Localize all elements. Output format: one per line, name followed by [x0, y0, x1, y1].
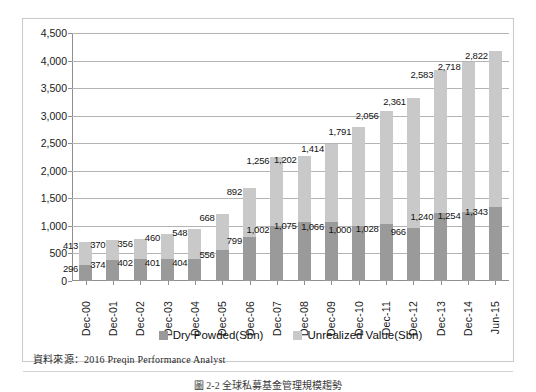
x-tick-mark [113, 281, 114, 285]
data-label-unrealized-value: 892 [227, 187, 242, 197]
legend-label: Dry Powded(Sbn) [173, 329, 264, 341]
y-tick-label: 3,000 [41, 110, 67, 122]
data-label-unrealized-value: 370 [90, 240, 105, 250]
data-label-dry-powder: 799 [227, 236, 242, 246]
data-label-dry-powder: 966 [391, 227, 406, 237]
y-tick-label: 1,000 [41, 220, 67, 232]
data-label-dry-powder: 1,343 [465, 207, 488, 217]
bar-segment-unrealized-value[interactable] [407, 98, 420, 228]
x-tick-mark [386, 281, 387, 285]
x-tick-mark [413, 281, 414, 285]
x-tick-mark [304, 281, 305, 285]
y-tick-label: 3,500 [41, 82, 67, 94]
data-label-dry-powder: 1,000 [329, 225, 352, 235]
bar-segment-unrealized-value[interactable] [298, 156, 311, 222]
bar-segment-dry-powder[interactable] [352, 226, 365, 281]
data-label-dry-powder: 1,002 [247, 225, 270, 235]
bar-segment-dry-powder[interactable] [216, 250, 229, 281]
x-tick-mark [222, 281, 223, 285]
x-tick-mark [468, 281, 469, 285]
data-label-unrealized-value: 1,791 [329, 127, 352, 137]
data-label-unrealized-value: 548 [172, 228, 187, 238]
data-label-unrealized-value: 1,202 [274, 155, 297, 165]
bar-segment-dry-powder[interactable] [188, 259, 201, 281]
data-label-unrealized-value: 2,822 [465, 51, 488, 61]
bar-segment-dry-powder[interactable] [434, 213, 447, 281]
data-label-unrealized-value: 2,583 [410, 70, 433, 80]
y-tick-label: 2,000 [41, 165, 67, 177]
bar-segment-unrealized-value[interactable] [352, 127, 365, 226]
data-label-unrealized-value: 668 [199, 213, 214, 223]
data-label-unrealized-value: 2,718 [438, 62, 461, 72]
x-tick-mark [441, 281, 442, 285]
bar-segment-dry-powder[interactable] [462, 212, 475, 281]
legend-swatch-icon [159, 331, 168, 340]
y-tick-mark [68, 281, 72, 282]
y-tick-label: 0 [61, 275, 67, 287]
data-label-dry-powder: 1,240 [410, 212, 433, 222]
data-label-dry-powder: 374 [90, 260, 105, 270]
source-note: 資料來源：2016 Preqin Performance Analyst [33, 351, 225, 366]
bar-segment-unrealized-value[interactable] [380, 111, 393, 224]
data-label-unrealized-value: 2,361 [383, 97, 406, 107]
x-tick-mark [331, 281, 332, 285]
data-label-unrealized-value: 1,256 [247, 156, 270, 166]
plot-area: 05001,0001,5002,0002,5003,0003,5004,0004… [72, 33, 509, 281]
x-tick-mark [168, 281, 169, 285]
y-tick-label: 4,500 [41, 27, 67, 39]
data-label-dry-powder: 402 [118, 258, 133, 268]
bar-segment-unrealized-value[interactable] [325, 144, 338, 222]
x-tick-mark [250, 281, 251, 285]
legend-item[interactable]: Unrealized Value(Sbn) [293, 329, 422, 341]
plot-inner: 05001,0001,5002,0002,5003,0003,5004,0004… [72, 33, 509, 281]
bar-segment-unrealized-value[interactable] [489, 51, 502, 207]
bar-segment-dry-powder[interactable] [243, 237, 256, 281]
data-label-unrealized-value: 1,414 [301, 144, 324, 154]
y-tick-label: 4,000 [41, 55, 67, 67]
data-label-unrealized-value: 2,056 [356, 111, 379, 121]
data-label-unrealized-value: 413 [63, 241, 78, 251]
y-tick-label: 1,500 [41, 192, 67, 204]
figure-caption: 圖 2-2 全球私募基金管理規模趨勢 [0, 377, 536, 392]
chart-frame: 05001,0001,5002,0002,5003,0003,5004,0004… [22, 18, 514, 362]
bar-segment-dry-powder[interactable] [407, 228, 420, 281]
legend-item[interactable]: Dry Powded(Sbn) [159, 329, 264, 341]
data-label-dry-powder: 296 [63, 264, 78, 274]
bar-segment-unrealized-value[interactable] [434, 70, 447, 212]
source-divider [23, 371, 513, 372]
x-tick-mark [495, 281, 496, 285]
chart-legend: Dry Powded(Sbn)Unrealized Value(Sbn) [72, 327, 509, 343]
y-tick-label: 2,500 [41, 137, 67, 149]
legend-label: Unrealized Value(Sbn) [307, 329, 422, 341]
x-tick-mark [359, 281, 360, 285]
bar-segment-dry-powder[interactable] [489, 207, 502, 281]
x-tick-mark [140, 281, 141, 285]
data-label-unrealized-value: 356 [118, 239, 133, 249]
x-tick-mark [86, 281, 87, 285]
x-tick-mark [195, 281, 196, 285]
data-label-dry-powder: 1,254 [438, 211, 461, 221]
bar-segment-unrealized-value[interactable] [462, 62, 475, 212]
bar-series: 2964133743704023564014604045485566687998… [72, 33, 509, 281]
legend-swatch-icon [293, 331, 302, 340]
data-label-dry-powder: 401 [145, 258, 160, 268]
data-label-dry-powder: 404 [172, 258, 187, 268]
data-label-dry-powder: 1,066 [301, 222, 324, 232]
x-tick-mark [277, 281, 278, 285]
bar-segment-dry-powder[interactable] [270, 226, 283, 281]
data-label-unrealized-value: 460 [145, 233, 160, 243]
data-label-dry-powder: 556 [199, 250, 214, 260]
bar-segment-unrealized-value[interactable] [270, 157, 283, 226]
data-label-dry-powder: 1,075 [274, 221, 297, 231]
data-label-dry-powder: 1,028 [356, 224, 379, 234]
